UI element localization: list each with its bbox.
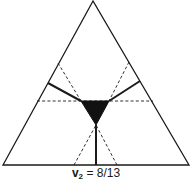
simplex-diagram	[0, 0, 192, 188]
caption-value: = 8/13	[86, 166, 120, 180]
caption-subscript: 2	[79, 172, 83, 181]
dashed-line	[96, 125, 117, 165]
solid-lines	[48, 81, 140, 165]
diagram-caption: v2 = 8/13	[0, 166, 192, 184]
cutoff-figure-label	[74, 184, 132, 188]
dashed-line	[74, 125, 96, 165]
caption-variable: v	[72, 166, 79, 180]
core-region	[81, 101, 109, 125]
